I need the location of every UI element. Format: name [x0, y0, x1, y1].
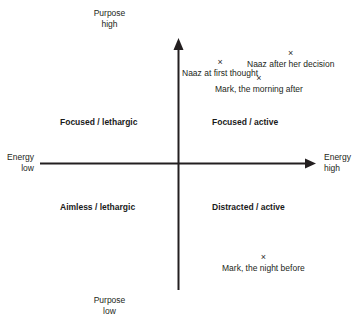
data-point-marker-icon: × — [215, 74, 303, 83]
data-point-mark-morning: × Mark, the morning after — [215, 74, 303, 95]
data-point-marker-icon: × — [247, 49, 334, 58]
quadrant-chart: Purpose high Purpose low Energy low Ener… — [0, 0, 364, 321]
data-point-marker-icon: × — [222, 253, 305, 262]
quadrant-label-bottom-right: Distracted / active — [212, 202, 285, 212]
axis-label-purpose-high-line2: high — [0, 19, 219, 30]
axis-label-energy-low-line2: low — [0, 163, 34, 174]
data-point-label: Naaz after her decision — [247, 59, 334, 70]
axis-label-purpose-low-line2: low — [0, 306, 219, 317]
quadrant-label-bottom-left: Aimless / lethargic — [60, 202, 135, 212]
axis-label-energy-high: Energy high — [324, 152, 351, 173]
data-point-mark-night: × Mark, the night before — [222, 253, 305, 274]
data-point-label: Mark, the night before — [222, 263, 305, 274]
axis-label-energy-low: Energy low — [0, 152, 34, 173]
quadrant-label-top-right: Focused / active — [212, 117, 278, 127]
axis-label-purpose-high-line1: Purpose — [0, 8, 219, 19]
quadrant-label-top-left: Focused / lethargic — [60, 117, 137, 127]
axis-label-energy-high-line2: high — [324, 163, 351, 174]
x-axis-arrowhead — [305, 159, 316, 169]
axis-label-purpose-low-line1: Purpose — [0, 295, 219, 306]
y-axis-arrowhead — [174, 38, 184, 50]
axis-label-energy-high-line1: Energy — [324, 152, 351, 163]
axis-label-energy-low-line1: Energy — [0, 152, 34, 163]
data-point-label: Mark, the morning after — [215, 84, 303, 95]
axis-label-purpose-high: Purpose high — [0, 8, 219, 29]
data-point-naaz-after: × Naaz after her decision — [247, 49, 334, 70]
axis-label-purpose-low: Purpose low — [0, 295, 219, 316]
